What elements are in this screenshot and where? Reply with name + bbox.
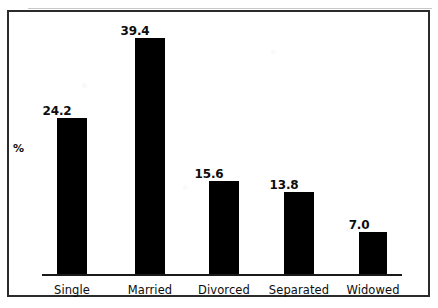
bar-value-label: 13.8 [254, 178, 314, 192]
bar-single [57, 118, 87, 274]
plot-area: % 24.2 Single 39.4 Married 15.6 Divorced… [9, 12, 428, 295]
bar-married [135, 38, 165, 274]
scan-artifact-band [0, 0, 438, 10]
bar-value-label: 7.0 [329, 218, 389, 232]
bar-divorced [209, 181, 239, 274]
bar-series: 24.2 Single 39.4 Married 15.6 Divorced 1… [9, 12, 428, 295]
bar-value-label: 15.6 [179, 167, 239, 181]
chart-frame: % 24.2 Single 39.4 Married 15.6 Divorced… [7, 10, 430, 297]
category-label-widowed: Widowed [325, 283, 421, 297]
bar-widowed [359, 232, 387, 274]
bar-value-label: 24.2 [27, 104, 87, 118]
bar-value-label: 39.4 [105, 24, 165, 38]
bar-separated [284, 192, 314, 274]
